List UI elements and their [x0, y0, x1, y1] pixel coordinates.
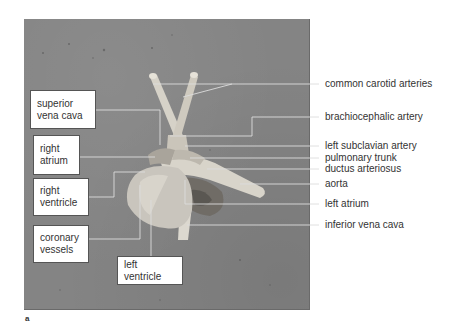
label-text-line2: ventricle — [40, 197, 82, 209]
label-ductus-arteriosus: ductus arteriosus — [325, 163, 401, 175]
label-superior-vena-cava: superior vena cava — [30, 90, 96, 129]
label-text-line2: vessels — [40, 244, 82, 256]
label-aorta: aorta — [325, 178, 348, 190]
label-right-ventricle: right ventricle — [33, 178, 89, 216]
label-common-carotid-arteries: common carotid arteries — [325, 78, 432, 90]
label-left-atrium: left atrium — [325, 198, 369, 210]
label-brachiocephalic-artery: brachiocephalic artery — [325, 111, 423, 123]
label-text-line2: atrium — [40, 155, 73, 167]
label-text-line1: right — [40, 143, 73, 155]
label-inferior-vena-cava: inferior vena cava — [325, 219, 404, 231]
label-text-line1: superior — [37, 98, 89, 110]
label-text-line2: vena cava — [37, 110, 89, 122]
label-left-subclavian-artery: left subclavian artery — [325, 140, 417, 152]
heart-ventricles-shape — [127, 166, 193, 229]
label-text-line1: coronary — [40, 232, 82, 244]
carotid-arteries-shape — [149, 72, 198, 160]
label-text-line1: right — [40, 185, 82, 197]
figure-panel-letter: a — [25, 314, 29, 323]
label-coronary-vessels: coronary vessels — [33, 225, 89, 263]
label-right-atrium: right atrium — [33, 135, 80, 175]
label-left-ventricle: left ventricle — [117, 256, 183, 285]
label-text: left ventricle — [124, 259, 176, 283]
